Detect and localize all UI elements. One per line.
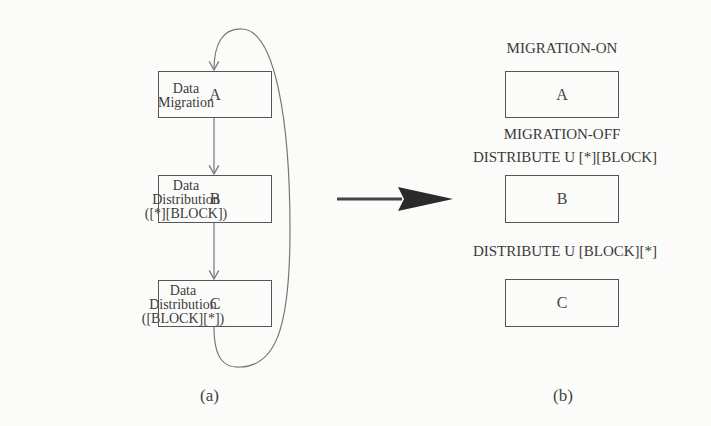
node-b-panel-b: B bbox=[505, 175, 619, 223]
annotation-migration-off: MIGRATION-OFF bbox=[462, 126, 662, 142]
node-c-label: C bbox=[210, 295, 221, 313]
node-a: A bbox=[158, 71, 272, 118]
annotation-distribute-star-block: DISTRIBUTE U [*][BLOCK] bbox=[450, 149, 680, 165]
node-c-panel-b-label: C bbox=[557, 294, 568, 312]
annotation-migration-on: MIGRATION-ON bbox=[462, 40, 662, 56]
annotation-distribute-block-star: DISTRIBUTE U [BLOCK][*] bbox=[450, 243, 680, 259]
transform-arrow-icon bbox=[337, 187, 453, 211]
node-a-label: A bbox=[209, 86, 221, 104]
node-c-panel-b: C bbox=[505, 279, 619, 327]
node-b-label: B bbox=[210, 190, 221, 208]
node-c: C bbox=[158, 280, 272, 327]
node-b-panel-a-label: A bbox=[556, 86, 568, 104]
node-b-panel-a: A bbox=[505, 71, 619, 118]
node-b-panel-b-label: B bbox=[557, 190, 568, 208]
caption-a: (a) bbox=[200, 386, 219, 406]
node-b: B bbox=[158, 175, 272, 223]
caption-b: (b) bbox=[553, 386, 573, 406]
